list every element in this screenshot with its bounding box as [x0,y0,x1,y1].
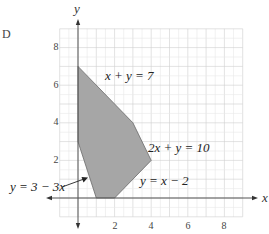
x-tick-6: 6 [186,220,191,231]
label-2x-plus-y-eq-10: 2x + y = 10 [148,140,210,155]
x-tick-2: 2 [113,220,118,231]
y-tick-6: 6 [54,79,59,90]
y-axis-arrow-icon [76,19,80,25]
label-x-plus-y-eq-7: x + y = 7 [104,68,154,83]
y-tick-2: 2 [54,154,59,165]
x-axis-left-arrow-icon [46,196,52,200]
y-tick-8: 8 [54,41,59,52]
label-y-eq-3-minus-3x: y = 3 − 3x [8,179,65,194]
y-axis-down-arrow-icon [76,223,80,229]
y-axis-label: y [72,1,80,16]
x-axis-arrow-icon [252,196,258,200]
y-tick-4: 4 [54,116,59,127]
x-tick-4: 4 [149,220,154,231]
label-y-eq-x-minus-2: y = x − 2 [138,173,189,188]
graph-figure: D x y 2 4 6 8 2 4 6 8 x + y = 7 2x + y =… [0,0,269,234]
annotation-arrow [62,179,84,187]
part-label: D [2,27,11,41]
x-axis-label: x [261,190,268,205]
x-tick-8: 8 [222,220,227,231]
